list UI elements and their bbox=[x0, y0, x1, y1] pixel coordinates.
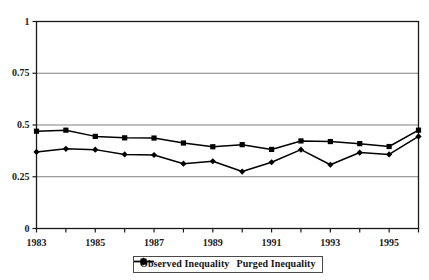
y-axis-tick-label: 0.25 bbox=[12, 172, 30, 182]
legend-item-purged-inequality: Purged Inequality bbox=[236, 259, 315, 269]
x-axis-tick-label: 1983 bbox=[17, 238, 57, 248]
x-axis-tick-label: 1995 bbox=[369, 238, 409, 248]
y-axis-tick-label: 1 bbox=[25, 17, 30, 27]
x-axis-tick-label: 1991 bbox=[252, 238, 292, 248]
y-axis-tick-label: 0.5 bbox=[17, 120, 30, 130]
legend-label-purged-inequality: Purged Inequality bbox=[236, 259, 315, 269]
chart-container: 00.250.50.751 19831985198719891991199319… bbox=[0, 0, 429, 280]
legend-diamond-marker-icon bbox=[134, 257, 154, 266]
x-axis-tick-label: 1989 bbox=[193, 238, 233, 248]
x-axis-tick-label: 1985 bbox=[75, 238, 115, 248]
chart-legend: Observed Inequality Purged Inequality bbox=[133, 256, 323, 273]
x-axis-tick-label: 1993 bbox=[310, 238, 350, 248]
y-axis-tick-label: 0 bbox=[25, 224, 30, 234]
x-axis-tick-label: 1987 bbox=[134, 238, 174, 248]
y-axis-tick-label: 0.75 bbox=[12, 68, 30, 78]
